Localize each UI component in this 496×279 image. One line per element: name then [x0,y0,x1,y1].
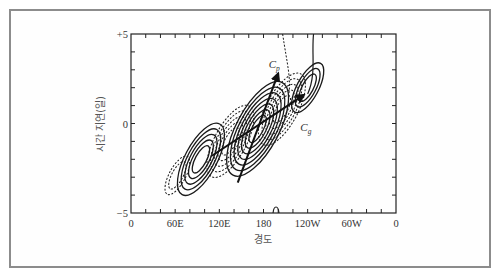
x-tick-labels: 060E120E180120W60W0 [128,218,398,229]
cg-label: Cg [300,121,311,136]
y-tick-label: +5 [117,29,128,40]
arrow-annotations: CpCg [269,58,312,136]
cp-label: Cp [269,58,280,73]
x-tick-label: 180 [256,218,272,229]
x-tick-label: 120E [208,218,230,229]
positive-contour [285,58,330,117]
x-tick-label: 0 [393,218,398,229]
lag-longitude-contour-chart: 060E120E180120W60W0 +50−5 경도 시간 지연(일) Cp… [0,0,496,279]
axis-ticks [131,34,396,213]
positive-contour [173,123,228,195]
y-tick-label: −5 [117,208,128,219]
x-tick-label: 0 [128,218,133,229]
positive-contour [308,34,314,94]
plot-area [131,34,396,213]
y-axis-title: 시간 지연(일) [95,96,106,152]
x-tick-label: 60W [342,218,363,229]
positive-contour [168,116,234,202]
x-axis-title: 경도 [254,233,272,245]
x-tick-label: 60E [167,218,184,229]
y-tick-label: 0 [123,119,128,130]
x-tick-label: 120W [295,218,321,229]
y-tick-labels: +50−5 [117,29,128,219]
